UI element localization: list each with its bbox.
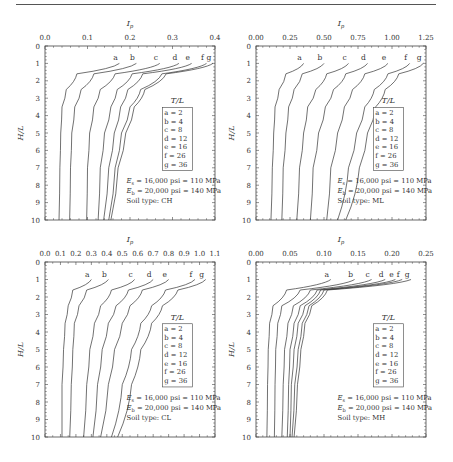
annotation: Es = 16,000 psi = 110 MPa <box>337 394 432 403</box>
annotation: Eb = 20,000 psi = 140 MPa <box>337 404 433 413</box>
y-tick-label: 9 <box>247 416 251 424</box>
chart-mh: 0.000.050.100.150.200.25012345678910IpH/… <box>0 0 453 462</box>
y-axis-title: H/L <box>227 342 236 358</box>
legend-item: b = 4 <box>375 334 394 342</box>
curve-label: b <box>348 270 353 279</box>
annotation: Soil type: MH <box>338 414 386 422</box>
x-tick-label: 0.00 <box>248 250 264 258</box>
y-tick-label: 4 <box>247 329 252 337</box>
x-axis-title: Ip <box>337 235 345 246</box>
y-tick-label: 6 <box>247 364 252 372</box>
y-tick-label: 3 <box>247 311 251 319</box>
curve-label: f <box>397 270 401 279</box>
legend-item: d = 12 <box>375 351 398 359</box>
x-tick-label: 0.20 <box>384 250 400 258</box>
y-tick-label: 0 <box>247 259 251 267</box>
curve-label: e <box>389 270 394 279</box>
legend-item: f = 26 <box>375 368 396 376</box>
x-tick-label: 0.10 <box>316 250 332 258</box>
curve-label: g <box>405 270 410 279</box>
legend-title: T/L <box>382 313 395 322</box>
legend-item: a = 2 <box>375 325 393 333</box>
curve-label: c <box>365 270 369 279</box>
curve-a <box>267 280 331 438</box>
x-tick-label: 0.05 <box>282 250 298 258</box>
legend-item: c = 8 <box>375 342 393 350</box>
curve-label: d <box>379 270 384 279</box>
legend-item: g = 36 <box>375 377 398 385</box>
curve-label: a <box>325 270 330 279</box>
y-tick-label: 8 <box>247 399 251 407</box>
y-tick-label: 7 <box>247 381 251 389</box>
y-tick-label: 1 <box>247 276 251 284</box>
x-tick-label: 0.25 <box>418 250 434 258</box>
legend-item: e = 16 <box>375 360 398 368</box>
y-tick-label: 10 <box>242 434 251 442</box>
y-tick-label: 5 <box>247 346 251 354</box>
x-tick-label: 0.15 <box>350 250 366 258</box>
y-tick-label: 2 <box>247 294 251 302</box>
